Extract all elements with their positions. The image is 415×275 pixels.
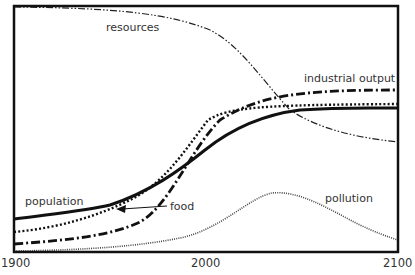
food-arrow-head — [116, 205, 126, 213]
plot-frame — [14, 6, 398, 252]
x-tick-1900: 1900 — [1, 256, 30, 270]
x-tick-2100: 2100 — [383, 256, 412, 270]
chart-plot — [0, 0, 415, 275]
resources-label: resources — [106, 21, 159, 34]
food-arrow — [122, 206, 167, 209]
pollution-label: pollution — [325, 192, 373, 205]
x-tick-2000: 2000 — [191, 256, 220, 270]
food-label: food — [170, 200, 194, 213]
population-label: population — [25, 195, 84, 208]
industrial-output-line — [14, 90, 398, 244]
industrial-output-label: industrial output — [304, 72, 395, 85]
